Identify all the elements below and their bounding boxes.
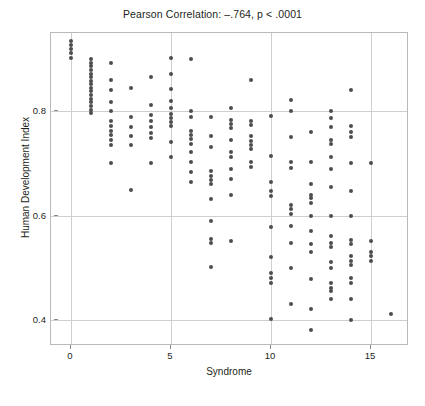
data-point [269,225,273,229]
data-point [289,224,293,228]
x-tick-label: 5 [155,350,185,361]
data-point [209,241,213,245]
data-point [209,115,213,119]
data-point [109,88,113,92]
data-point [389,312,393,316]
data-point [129,143,133,147]
data-point [309,250,313,254]
data-point [229,118,233,122]
data-point [189,109,193,113]
gridline-horizontal [51,216,407,217]
data-point [169,87,173,91]
data-point [229,167,233,171]
data-point [309,229,313,233]
data-point [149,75,153,79]
x-axis-ticks: 051015 [50,345,408,367]
data-point [109,143,113,147]
data-point [229,138,233,142]
data-point [349,281,353,285]
data-point [109,61,113,65]
gridline-horizontal [51,320,407,321]
data-point [349,130,353,134]
data-point [109,78,113,82]
data-point [289,160,293,164]
data-point [349,88,353,92]
data-point [69,43,73,47]
data-point [309,130,313,134]
data-point [329,167,333,171]
data-point [189,57,193,61]
gridline-vertical [171,33,172,344]
data-point [169,72,173,76]
y-tick-mark [54,215,58,216]
data-point [209,265,213,269]
data-point [149,103,153,107]
x-tick-label: 15 [355,350,385,361]
data-point [349,124,353,128]
y-tick-label: 0.4 [16,313,46,324]
data-point [109,161,113,165]
data-point [289,241,293,245]
gridline-vertical [71,33,72,344]
data-point [309,307,313,311]
x-tick-mark [70,345,71,349]
data-point [109,133,113,137]
data-point [349,161,353,165]
data-point [289,266,293,270]
data-point [329,185,333,189]
data-point [349,297,353,301]
data-point [269,194,273,198]
data-point [209,197,213,201]
data-point [109,100,113,104]
data-point [269,114,273,118]
data-point [109,124,113,128]
data-point [329,155,333,159]
x-tick-mark [370,345,371,349]
data-point [329,281,333,285]
data-point [249,123,253,127]
data-point [229,177,233,181]
data-point [149,136,153,140]
data-point [249,134,253,138]
data-point [309,201,313,205]
data-point [169,106,173,110]
data-point [109,119,113,123]
data-point [249,147,253,151]
data-point [349,242,353,246]
data-point [129,134,133,138]
data-point [289,109,293,113]
data-point [69,56,73,60]
data-point [289,207,293,211]
data-point [209,219,213,223]
data-point [189,115,193,119]
data-point [369,259,373,263]
data-point [289,166,293,170]
data-point [329,266,333,270]
y-tick-mark [54,319,58,320]
data-point [129,115,133,119]
data-point [209,134,213,138]
data-point [269,281,273,285]
data-point [269,180,273,184]
x-tick-label: 0 [55,350,85,361]
y-tick-mark [54,110,58,111]
data-point [329,142,333,146]
data-point [189,170,193,174]
data-point [249,165,253,169]
x-tick-label: 10 [255,350,285,361]
data-point [309,160,313,164]
x-axis-title: Syndrome [50,366,408,377]
data-point [109,138,113,142]
data-point [169,124,173,128]
data-point [149,161,153,165]
chart-title: Pearson Correlation: –.764, p < .0001 [0,8,425,20]
data-point [189,160,193,164]
data-point [309,182,313,186]
data-point [169,140,173,144]
data-point [289,135,293,139]
data-point [169,155,173,159]
gridline-horizontal [51,111,407,112]
gridline-vertical [371,33,372,344]
data-point [129,86,133,90]
data-point [129,125,133,129]
